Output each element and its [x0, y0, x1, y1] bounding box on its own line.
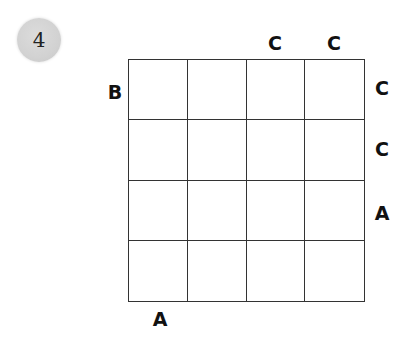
clue-top-col4: C	[327, 34, 341, 53]
grid-cell[interactable]	[305, 181, 364, 241]
grid-cell[interactable]	[305, 241, 364, 301]
grid-cell[interactable]	[247, 60, 306, 120]
grid-cell[interactable]	[129, 181, 188, 241]
puzzle-grid	[128, 59, 365, 302]
grid-cell[interactable]	[188, 60, 247, 120]
grid-cell[interactable]	[247, 241, 306, 301]
puzzle-number: 4	[33, 28, 46, 52]
grid-cell[interactable]	[188, 120, 247, 180]
grid-cell[interactable]	[129, 60, 188, 120]
grid-cell[interactable]	[305, 120, 364, 180]
puzzle-number-badge: 4	[17, 18, 61, 62]
grid-cell[interactable]	[129, 241, 188, 301]
clue-top-col3: C	[268, 34, 282, 53]
grid-cell[interactable]	[188, 181, 247, 241]
grid-cell[interactable]	[247, 181, 306, 241]
clue-left-row1: B	[108, 83, 122, 102]
clue-bottom-col1: A	[153, 310, 168, 329]
clue-right-row2: C	[375, 140, 389, 159]
clue-right-row3: A	[375, 204, 390, 223]
grid-cell[interactable]	[188, 241, 247, 301]
grid-cell[interactable]	[305, 60, 364, 120]
grid-cell[interactable]	[247, 120, 306, 180]
clue-right-row1: C	[375, 79, 389, 98]
grid-cell[interactable]	[129, 120, 188, 180]
